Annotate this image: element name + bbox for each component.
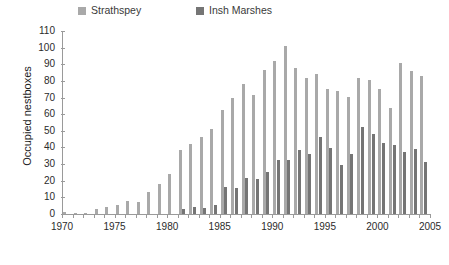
x-tick-1989 <box>262 214 263 218</box>
bar-strathspey-1979 <box>158 184 161 214</box>
bar-insh-marshes-2002 <box>403 152 406 214</box>
x-tick-1988 <box>251 214 252 218</box>
bar-strathspey-1985 <box>221 110 224 214</box>
x-tick-1981 <box>178 214 179 218</box>
bar-insh-marshes-1997 <box>350 154 353 214</box>
y-tick-label: 20 <box>44 176 61 186</box>
bar-strathspey-1992 <box>294 68 297 214</box>
bar-strathspey-1991 <box>284 46 287 214</box>
bar-strathspey-1980 <box>168 174 171 214</box>
bar-insh-marshes-1987 <box>245 178 248 214</box>
x-tick-label: 1995 <box>314 221 336 232</box>
x-tick-1979 <box>157 214 158 218</box>
bar-strathspey-1972 <box>84 213 87 214</box>
bar-insh-marshes-2001 <box>393 145 396 214</box>
bar-strathspey-2001 <box>389 108 392 214</box>
bar-strathspey-1983 <box>200 137 203 214</box>
bar-insh-marshes-1991 <box>287 160 290 214</box>
x-tick-1971 <box>73 214 74 218</box>
x-tick-1975 <box>115 214 116 218</box>
x-tick-1974 <box>104 214 105 218</box>
x-tick-1996 <box>335 214 336 218</box>
bar-strathspey-1996 <box>336 91 339 214</box>
bar-strathspey-1981 <box>179 150 182 214</box>
x-tick-label: 1975 <box>103 221 125 232</box>
x-tick-1993 <box>304 214 305 218</box>
x-tick-2002 <box>398 214 399 218</box>
x-tick-2005 <box>430 214 431 218</box>
x-tick-1980 <box>167 214 168 218</box>
bar-strathspey-1982 <box>189 144 192 214</box>
legend-label-insh-marshes: Insh Marshes <box>209 5 272 16</box>
y-axis-title: Occupied nestboxes <box>21 36 33 196</box>
bar-strathspey-1998 <box>357 78 360 214</box>
chart-legend: Strathspey Insh Marshes <box>0 5 449 21</box>
y-tick-label: 30 <box>44 159 61 169</box>
y-tick-70: 70 <box>44 93 61 103</box>
bar-strathspey-2003 <box>410 71 413 214</box>
bar-strathspey-1995 <box>326 89 329 214</box>
x-tick-1994 <box>314 214 315 218</box>
bar-insh-marshes-1988 <box>256 179 259 214</box>
bar-insh-marshes-1985 <box>224 187 227 214</box>
y-tick-40: 40 <box>44 142 61 152</box>
bar-insh-marshes-1999 <box>372 134 375 214</box>
y-tick-label: 50 <box>44 126 61 136</box>
bar-strathspey-2004 <box>420 76 423 214</box>
y-tick-label: 110 <box>39 26 61 36</box>
legend-swatch-insh-marshes <box>196 7 204 15</box>
x-tick-1983 <box>199 214 200 218</box>
bar-strathspey-1997 <box>347 97 350 214</box>
y-tick-20: 20 <box>44 176 61 186</box>
bar-insh-marshes-1996 <box>340 165 343 214</box>
y-tick-label: 10 <box>44 192 61 202</box>
x-tick-1986 <box>230 214 231 218</box>
y-tick-100: 100 <box>38 43 61 53</box>
bar-strathspey-1970 <box>63 212 66 214</box>
x-tick-label: 1990 <box>261 221 283 232</box>
y-tick-50: 50 <box>44 126 61 136</box>
bar-insh-marshes-1993 <box>308 154 311 214</box>
bar-strathspey-1975 <box>116 205 119 214</box>
x-tick-label: 1985 <box>209 221 231 232</box>
x-tick-1992 <box>293 214 294 218</box>
bar-insh-marshes-2003 <box>414 149 417 214</box>
x-axis-line <box>62 214 431 215</box>
y-tick-60: 60 <box>44 109 61 119</box>
bar-strathspey-1990 <box>273 61 276 214</box>
x-tick-label: 1970 <box>51 221 73 232</box>
x-tick-1990 <box>272 214 273 218</box>
x-tick-2004 <box>419 214 420 218</box>
plot-area <box>62 31 430 214</box>
x-tick-1987 <box>241 214 242 218</box>
x-tick-1997 <box>346 214 347 218</box>
y-tick-30: 30 <box>44 159 61 169</box>
y-tick-0: 0 <box>49 209 61 219</box>
x-tick-1982 <box>188 214 189 218</box>
x-tick-label: 2000 <box>366 221 388 232</box>
y-tick-10: 10 <box>44 192 61 202</box>
bar-strathspey-1977 <box>137 202 140 214</box>
x-tick-1970 <box>62 214 63 218</box>
bar-insh-marshes-1982 <box>193 207 196 214</box>
bar-strathspey-2002 <box>399 63 402 214</box>
bar-insh-marshes-2004 <box>424 162 427 214</box>
y-tick-label: 40 <box>44 142 61 152</box>
x-tick-2003 <box>409 214 410 218</box>
bar-strathspey-1994 <box>315 74 318 214</box>
legend-label-strathspey: Strathspey <box>91 5 141 16</box>
y-tick-label: 90 <box>44 59 61 69</box>
x-tick-1972 <box>83 214 84 218</box>
y-tick-90: 90 <box>44 59 61 69</box>
bar-strathspey-1978 <box>147 192 150 214</box>
bar-strathspey-1988 <box>252 95 255 214</box>
y-tick-label: 0 <box>49 209 61 219</box>
y-tick-110: 110 <box>39 26 61 36</box>
bar-strathspey-1987 <box>242 84 245 214</box>
x-tick-2001 <box>388 214 389 218</box>
bar-strathspey-1993 <box>305 78 308 214</box>
legend-item-insh-marshes: Insh Marshes <box>196 5 272 16</box>
bar-strathspey-1989 <box>263 70 266 214</box>
bar-insh-marshes-1995 <box>329 148 332 214</box>
x-tick-1991 <box>283 214 284 218</box>
